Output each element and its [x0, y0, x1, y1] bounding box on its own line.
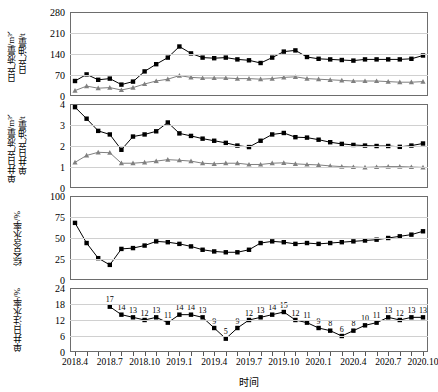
x-tick-mark [98, 352, 99, 356]
data-point-marker [212, 56, 216, 60]
data-point-marker [270, 55, 274, 59]
x-tick-mark [87, 352, 88, 356]
panel2-ylabel: 单井日产液量/m³、 单井日产油量/t [0, 104, 34, 188]
data-point-marker [270, 132, 274, 136]
data-point-marker [189, 244, 193, 248]
data-point-marker [305, 320, 309, 324]
x-tick-mark [110, 352, 111, 356]
data-point-label: 12 [291, 309, 299, 318]
gridline [70, 33, 428, 34]
data-point-marker [258, 139, 262, 143]
panel3-plot: 0255075100 [70, 196, 428, 280]
data-point-marker [351, 328, 355, 332]
x-tick-label: 2020.7 [375, 357, 401, 367]
gridline [70, 75, 428, 76]
data-point-marker [131, 79, 135, 83]
data-point-marker [166, 320, 170, 324]
data-point-label: 11 [303, 311, 311, 320]
data-point-label: 12 [396, 309, 404, 318]
panel2-plot: 01234 [70, 104, 428, 188]
x-tick-mark [214, 352, 215, 356]
data-point-marker [96, 129, 100, 133]
panel4-ylabel: 单井日注水率/% [0, 288, 34, 352]
data-point-marker [270, 239, 274, 243]
x-tick-mark [365, 352, 366, 356]
data-point-label: 11 [164, 311, 172, 320]
gridline [70, 217, 428, 218]
data-point-marker [235, 250, 239, 254]
data-point-marker [270, 312, 274, 316]
gridline [70, 167, 428, 168]
data-point-marker [154, 315, 158, 319]
x-tick-label: 2018.4 [62, 357, 88, 367]
x-axis: 时间 2018.42018.72018.102019.12019.42019.7… [70, 352, 428, 392]
data-point-label: 12 [245, 309, 253, 318]
data-point-marker [340, 58, 344, 62]
data-point-marker [305, 55, 309, 59]
data-point-label: 13 [257, 306, 265, 315]
x-tick-mark [295, 352, 296, 356]
data-point-marker [131, 246, 135, 250]
data-point-marker [282, 310, 286, 314]
data-point-label: 10 [361, 314, 369, 323]
data-point-marker [177, 242, 181, 246]
data-point-marker [84, 241, 88, 245]
panel-injection-rate: 单井日注水率/% 1714131213111414139591213141512… [0, 288, 434, 352]
gridline [70, 336, 428, 337]
x-tick-mark [284, 352, 285, 356]
x-tick-mark [145, 352, 146, 356]
x-tick-mark [353, 352, 354, 356]
x-tick-mark [226, 352, 227, 356]
data-point-marker [247, 248, 251, 252]
data-point-marker [73, 221, 77, 225]
series-line [75, 107, 423, 150]
data-point-marker [142, 243, 146, 247]
panel1-ylabel: 日产液量/m³、 日产油量/t [0, 12, 34, 96]
data-point-marker [421, 315, 425, 319]
x-tick-mark [191, 352, 192, 356]
data-point-marker [119, 82, 123, 86]
gridline [70, 259, 428, 260]
data-point-marker [305, 241, 309, 245]
data-point-marker [235, 57, 239, 61]
gridline [70, 304, 428, 305]
data-point-label: 9 [317, 317, 321, 326]
y-tick-label: 25 [55, 254, 65, 265]
x-tick-mark [388, 352, 389, 356]
data-point-marker [293, 48, 297, 52]
data-point-marker [119, 148, 123, 152]
panel2-ylabel-line2: 单井日产油量/t [17, 116, 27, 175]
data-point-marker [108, 263, 112, 267]
gridline [70, 238, 428, 239]
x-tick-label: 2019.4 [201, 357, 227, 367]
data-point-marker [305, 135, 309, 139]
data-point-label: 13 [384, 306, 392, 315]
x-tick-label: 2020.10 [408, 357, 438, 367]
y-tick-label: 0 [60, 347, 65, 358]
data-point-marker [398, 57, 402, 61]
data-point-marker [108, 304, 112, 308]
data-point-marker [374, 57, 378, 61]
data-point-label: 5 [224, 327, 228, 336]
data-point-marker [96, 78, 100, 82]
x-tick-mark [400, 352, 401, 356]
data-point-marker [73, 105, 77, 109]
data-point-marker [212, 249, 216, 253]
y-tick-label: 50 [55, 233, 65, 244]
data-point-marker [421, 229, 425, 233]
data-point-label: 12 [141, 309, 149, 318]
data-point-marker [72, 160, 77, 165]
y-tick-label: 3 [60, 120, 65, 131]
data-point-marker [224, 141, 228, 145]
data-point-marker [282, 240, 286, 244]
data-point-label: 13 [199, 306, 207, 315]
y-tick-label: 24 [55, 283, 65, 294]
x-axis-title: 时间 [70, 374, 428, 389]
data-point-marker [119, 247, 123, 251]
data-point-label: 15 [280, 301, 288, 310]
data-point-marker [212, 326, 216, 330]
data-point-marker [293, 135, 297, 139]
data-point-marker [189, 134, 193, 138]
data-point-marker [142, 69, 146, 73]
data-point-marker [154, 62, 158, 66]
